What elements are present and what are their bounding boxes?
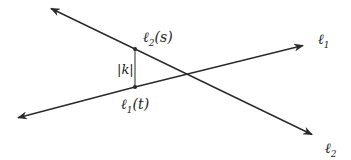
point-l1t: [133, 85, 137, 89]
line-l2: [135, 49, 312, 135]
line-l1-back: [18, 87, 135, 118]
point-l2s: [133, 47, 137, 51]
distance-label: |k|: [117, 62, 134, 77]
skew-lines-diagram: |k| ℓ2(s) ℓ1(t) ℓ1 ℓ2: [0, 0, 351, 160]
line-l2-back: [51, 9, 135, 50]
point-label-l1t: ℓ1(t): [121, 96, 149, 115]
line-label-l2: ℓ2: [325, 140, 337, 159]
line-label-l1: ℓ1: [318, 31, 330, 50]
point-label-l2s: ℓ2(s): [143, 29, 173, 48]
line-l1: [135, 46, 303, 88]
